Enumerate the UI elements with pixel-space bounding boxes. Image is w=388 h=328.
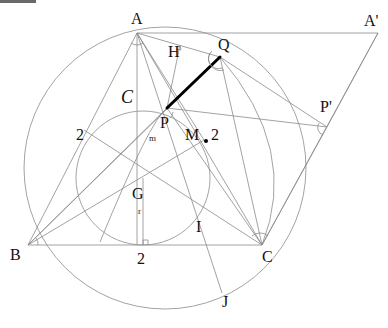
label-M: M [185, 126, 199, 143]
arc-left [100, 108, 167, 242]
label-m: m [149, 133, 156, 143]
label-H: H [168, 43, 180, 60]
point-M-dot [204, 139, 208, 143]
label-C: C [262, 248, 273, 265]
line-2C [84, 130, 262, 245]
label-P-prime: P' [320, 98, 332, 115]
label-B: B [10, 246, 21, 263]
label-left-2: 2 [76, 126, 84, 143]
right-angle-mark-bottom [143, 240, 148, 245]
segment-PQ [167, 57, 220, 108]
label-P: P [160, 114, 169, 131]
line-A'P' [327, 33, 378, 127]
label-A: A [131, 10, 143, 27]
label-m-side-2: 2 [211, 126, 219, 143]
label-Q: Q [218, 36, 230, 53]
line-AJ [137, 33, 222, 293]
label-G: G [132, 185, 144, 202]
angle-arc-P' [318, 123, 323, 135]
line-P'C [262, 127, 327, 245]
geometry-diagram: A A' Q H P' C P M 2 m 2 G r I B 2 C J [0, 0, 388, 328]
label-I: I [196, 218, 201, 235]
label-circle-C: C [121, 87, 134, 107]
label-A-prime: A' [364, 12, 379, 29]
label-bottom-2: 2 [137, 250, 145, 267]
circumcircle [24, 27, 306, 309]
label-r: r [138, 206, 141, 216]
arc-right [220, 57, 274, 245]
line-BM [28, 140, 204, 245]
label-J: J [222, 293, 228, 310]
